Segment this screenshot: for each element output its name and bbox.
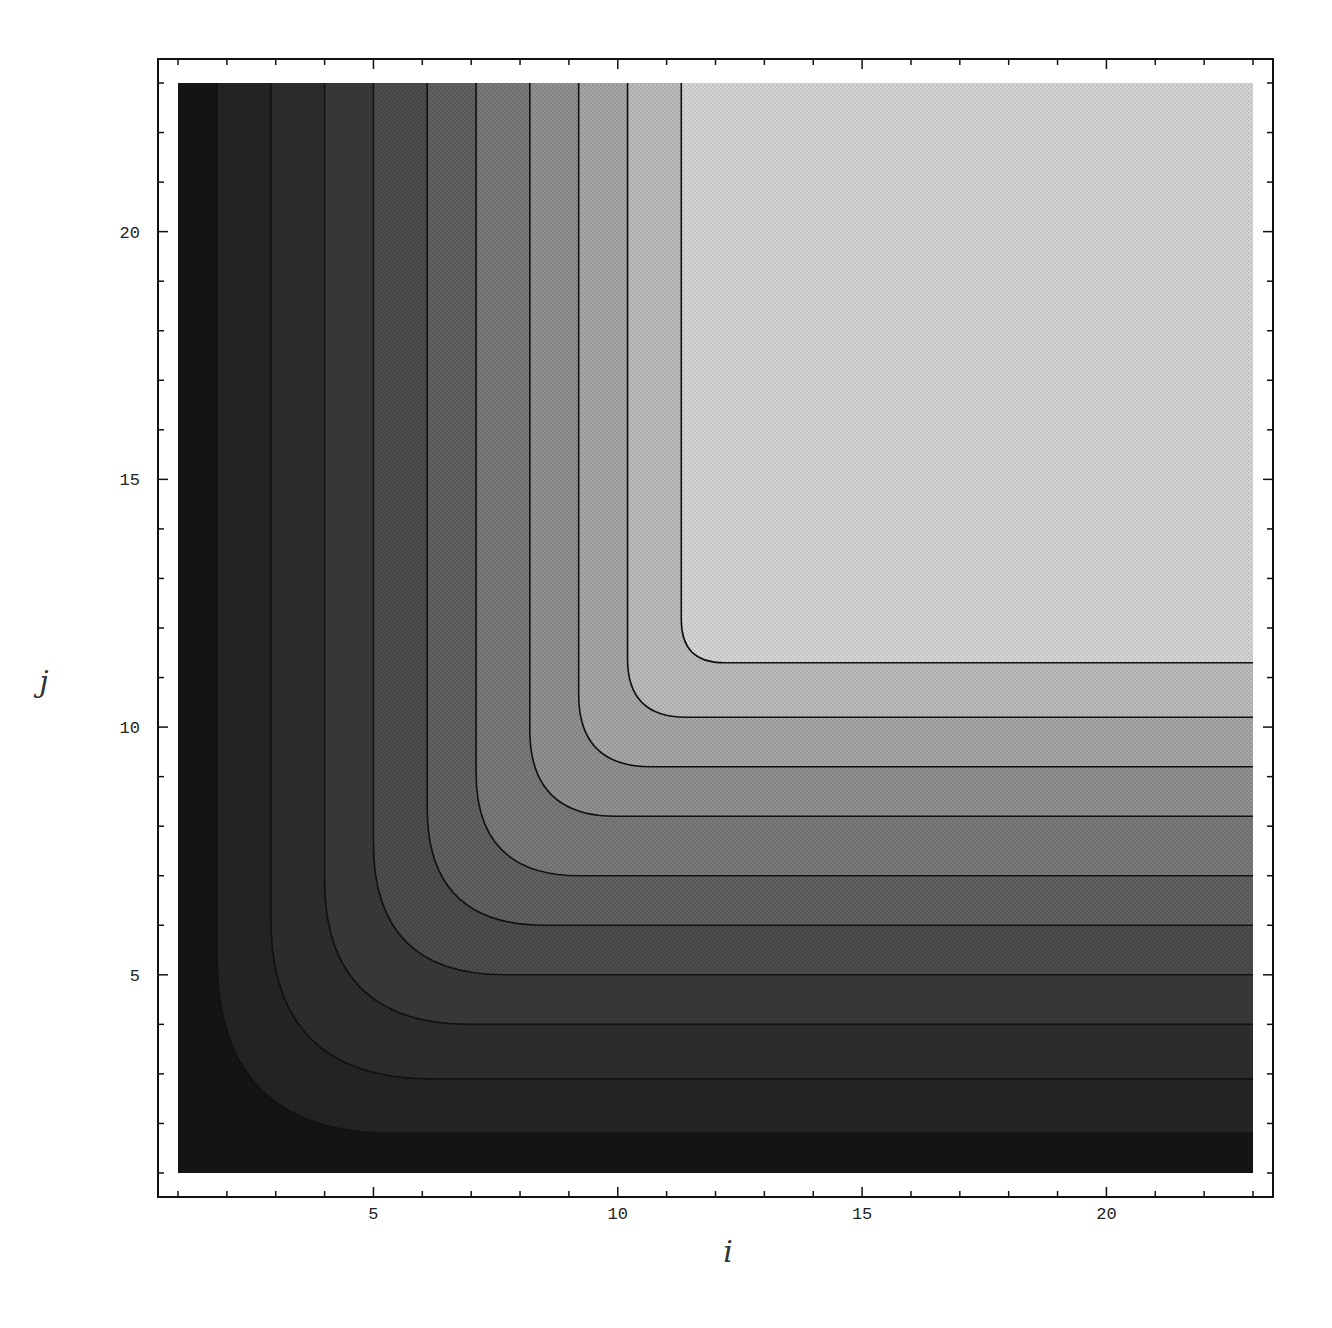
y-tick-label: 10	[120, 719, 140, 738]
y-tick-labels: 5101520	[120, 224, 140, 986]
y-axis-label: j	[33, 664, 48, 699]
halftone-overlay	[178, 83, 1253, 1173]
y-tick-label: 15	[120, 471, 140, 490]
x-tick-label: 15	[852, 1205, 872, 1224]
y-tick-label: 20	[120, 224, 140, 243]
x-tick-label: 5	[368, 1205, 378, 1224]
y-tick-label: 5	[130, 967, 140, 986]
x-tick-label: 20	[1096, 1205, 1116, 1224]
x-tick-labels: 5101520	[368, 1205, 1116, 1224]
contour-plot: 5101520 5101520 i j	[0, 0, 1332, 1328]
x-axis-label: i	[723, 1234, 733, 1269]
x-tick-label: 10	[608, 1205, 628, 1224]
